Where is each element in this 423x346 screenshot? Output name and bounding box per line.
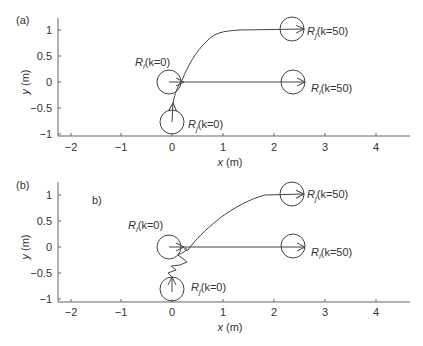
- label-rj-k50: Rj(k=50): [307, 25, 348, 40]
- y-axis-label: y (m): [19, 234, 31, 260]
- x-tick-label: −2: [65, 141, 78, 153]
- panel-label: (a): [16, 14, 29, 26]
- figure: (a) 1 0.5 0 −0.5 −1: [0, 0, 423, 346]
- y-tick-label: −1: [39, 128, 52, 140]
- label-rj-k50: Rj(k=50): [307, 188, 348, 203]
- x-tick-labels: −2 −1 0 1 2 3 4: [65, 306, 379, 318]
- x-tick-label: 2: [271, 141, 277, 153]
- panel-a: (a) 1 0.5 0 −0.5 −1: [16, 14, 410, 168]
- y-tick-label: −0.5: [30, 267, 52, 279]
- label-ri-k0: Ri(k=0): [128, 219, 163, 234]
- x-tick-label: −1: [115, 141, 128, 153]
- y-tick-label: 0.5: [37, 50, 52, 62]
- x-tick-label: −2: [65, 306, 78, 318]
- robot-i-end-circle: [281, 234, 305, 258]
- y-tick-label: 0.5: [37, 215, 52, 227]
- label-ri-k0: Ri(k=0): [135, 56, 170, 71]
- panel-b: (b) b) 1 0.5 0 −0.5 −1: [16, 179, 410, 333]
- x-tick-labels: −2 −1 0 1 2 3 4: [65, 141, 379, 153]
- robot-j-trajectory: [168, 194, 304, 277]
- panel-label: (b): [16, 179, 29, 191]
- y-tick-label: 0: [46, 76, 52, 88]
- x-tick-label: 4: [373, 141, 379, 153]
- x-tick-label: 3: [322, 306, 328, 318]
- x-tick-label: 3: [322, 141, 328, 153]
- label-rj-k0: Rj(k=0): [191, 281, 226, 296]
- y-tick-labels: 1 0.5 0 −0.5 −1: [30, 189, 52, 305]
- robot-j-trajectory: [173, 29, 304, 103]
- y-tick-labels: 1 0.5 0 −0.5 −1: [30, 24, 52, 140]
- x-axis-label: x (m): [216, 156, 242, 168]
- y-axis-label: y (m): [19, 69, 31, 95]
- label-rj-k0: Rj(k=0): [188, 118, 223, 133]
- label-ri-k50: Ri(k=50): [311, 246, 352, 261]
- y-tick-label: 0: [46, 241, 52, 253]
- x-tick-label: 1: [220, 306, 226, 318]
- x-tick-label: 0: [169, 306, 175, 318]
- x-tick-label: 0: [169, 141, 175, 153]
- inner-label: b): [92, 194, 102, 206]
- robot-j-heading-start: [172, 103, 173, 122]
- label-ri-k50: Ri(k=50): [311, 82, 352, 97]
- y-tick-label: 1: [46, 24, 52, 36]
- y-tick-label: −0.5: [30, 102, 52, 114]
- x-tick-label: 4: [373, 306, 379, 318]
- x-tick-label: −1: [115, 306, 128, 318]
- y-tick-label: 1: [46, 189, 52, 201]
- x-tick-label: 1: [220, 141, 226, 153]
- x-axis-label: x (m): [216, 321, 242, 333]
- y-tick-label: −1: [39, 293, 52, 305]
- x-tick-label: 2: [271, 306, 277, 318]
